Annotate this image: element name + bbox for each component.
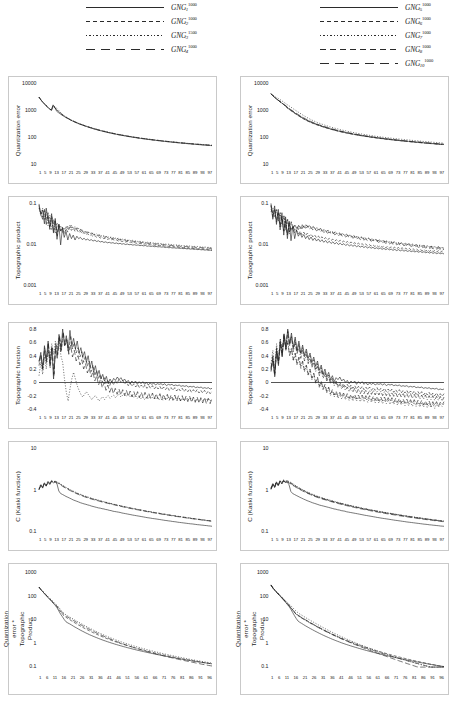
x-axis-tick-label: 77	[171, 170, 175, 175]
x-axis-tick-label: 5	[276, 170, 278, 175]
panel-kaski-function-right: C (Kaski function)1010.11591317212529333…	[240, 441, 449, 551]
y-axis-title: Topographic function	[243, 323, 256, 428]
series-line	[271, 585, 444, 667]
series-line	[271, 585, 444, 667]
series-line	[271, 585, 444, 667]
legend-item-label: GNG11000	[171, 3, 197, 12]
x-axis-tick-label: 37	[98, 170, 102, 175]
x-axis-tick-label: 41	[105, 291, 109, 296]
series-line	[271, 94, 444, 145]
x-axis-tick-label: 93	[432, 415, 436, 420]
x-axis-tick-label: 1	[271, 291, 273, 296]
y-axis-tick-label: 0.001	[256, 282, 269, 288]
plot-area: 1010.1	[271, 448, 444, 531]
x-axis-tick-label: 81	[178, 415, 182, 420]
x-axis-tick-label: 21	[69, 170, 73, 175]
x-axis-tick-label: 21	[303, 675, 307, 680]
y-axis-tick-label: 1	[266, 487, 269, 493]
legend-item-gng-3-1500: GNG31500	[0, 28, 228, 42]
series-line	[39, 587, 212, 663]
plot-area: 10100100010000	[271, 83, 444, 164]
x-axis-tick-label: 29	[83, 291, 87, 296]
series-line	[271, 480, 444, 521]
x-axis-tick-label: 71	[162, 675, 166, 680]
x-axis-tick-label: 13	[286, 537, 290, 542]
plot-area: 10001001010.1	[39, 572, 212, 666]
y-axis-tick-label: 0.2	[29, 366, 36, 372]
y-axis-tick-label: 1000	[25, 107, 37, 113]
series-line	[39, 587, 212, 664]
x-axis-tick-label: 85	[186, 291, 190, 296]
x-axis-tick-label: 49	[120, 291, 124, 296]
series-line	[39, 208, 212, 248]
y-axis-tick-label: -0.4	[260, 406, 269, 412]
legend-line-swatch	[86, 30, 164, 40]
x-axis-tick-label: 16	[62, 675, 66, 680]
x-axis-tick-label: 13	[54, 291, 58, 296]
x-axis-tick-label: 1	[271, 537, 273, 542]
x-axis-tick-label: 73	[164, 291, 168, 296]
y-axis-tick-label: 10	[263, 161, 269, 167]
x-axis-tick-label: 29	[83, 415, 87, 420]
legend-line-swatch	[320, 2, 398, 12]
x-axis-tick-label: 61	[142, 291, 146, 296]
legend-right: GNG51000GNG61000GNG71000GNG81000GNG10100…	[232, 0, 465, 74]
legend-item-gng-8-1000: GNG81000	[232, 42, 465, 56]
x-axis-tick-label: 13	[54, 415, 58, 420]
x-axis-tick-label: 65	[381, 291, 385, 296]
x-axis-tick-label: 46	[348, 675, 352, 680]
x-axis-tick-label: 89	[193, 170, 197, 175]
x-axis-tick-label: 69	[388, 291, 392, 296]
x-axis-tick-label: 93	[200, 170, 204, 175]
x-axis-tick-label: 9	[281, 170, 283, 175]
x-axis-tick-label: 25	[76, 170, 80, 175]
x-axis-tick-label: 9	[281, 291, 283, 296]
series-line	[39, 97, 212, 145]
x-axis-tick-label: 21	[301, 170, 305, 175]
x-axis-tick-label: 41	[105, 415, 109, 420]
x-axis-tick-label: 91	[198, 675, 202, 680]
x-axis-tick-label: 51	[125, 675, 129, 680]
x-axis-tick-label: 69	[388, 537, 392, 542]
x-axis-tick-label: 13	[54, 537, 58, 542]
series-line	[39, 480, 212, 521]
x-axis-tick-label: 37	[330, 170, 334, 175]
series-line	[271, 94, 444, 144]
y-axis-title: C (Kaski function)	[243, 442, 256, 550]
x-axis-tick-label: 97	[207, 291, 211, 296]
series-curves	[39, 329, 212, 409]
panel-kaski-function-left: C (Kaski function)1010.11591317212529333…	[8, 441, 217, 551]
x-axis-tick-label: 41	[337, 537, 341, 542]
x-axis-tick-label: 97	[439, 170, 443, 175]
x-axis-tick-label: 29	[83, 537, 87, 542]
x-axis-tick-labels: 1591317212529333741454953576165697377818…	[271, 291, 444, 296]
x-axis-tick-label: 41	[107, 675, 111, 680]
x-axis-tick-label: 57	[366, 415, 370, 420]
x-axis-tick-label: 97	[439, 537, 443, 542]
x-axis-tick-label: 37	[330, 537, 334, 542]
x-axis-tick-label: 17	[61, 291, 65, 296]
legend-line-swatch	[320, 16, 398, 26]
x-axis-tick-label: 29	[315, 537, 319, 542]
y-axis-title: Topographic function	[11, 323, 24, 428]
x-axis-tick-label: 96	[439, 675, 443, 680]
series-curves	[39, 203, 212, 285]
y-axis-tick-label: 10	[263, 445, 269, 451]
y-axis-title-text: Quantization error	[246, 104, 253, 155]
legend-line-swatch	[320, 44, 398, 54]
x-axis-tick-label: 76	[171, 675, 175, 680]
x-axis-tick-label: 17	[61, 537, 65, 542]
x-axis-tick-label: 13	[286, 291, 290, 296]
legend-line-swatch	[86, 16, 164, 26]
y-axis-tick-label: 1	[34, 487, 37, 493]
x-axis-tick-label: 73	[396, 170, 400, 175]
y-axis-title: Quantization error	[243, 77, 256, 183]
series-line	[271, 332, 444, 397]
x-axis-tick-label: 85	[418, 537, 422, 542]
x-axis-tick-label: 37	[98, 537, 102, 542]
x-axis-tick-label: 1	[271, 415, 273, 420]
y-axis-tick-label: 0.1	[261, 200, 268, 206]
x-axis-tick-label: 33	[91, 291, 95, 296]
x-axis-tick-label: 33	[323, 537, 327, 542]
x-axis-tick-label: 36	[330, 675, 334, 680]
